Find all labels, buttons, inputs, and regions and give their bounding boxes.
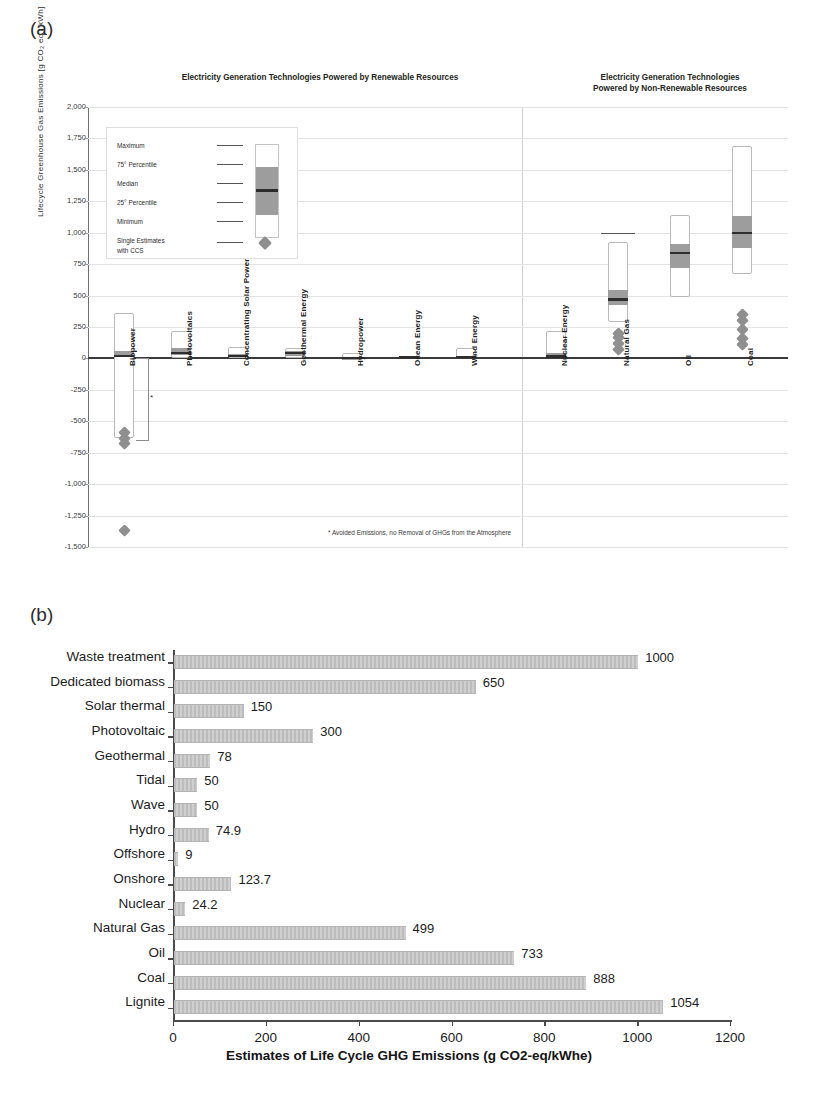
chart-b-bar-row: Dedicated biomass650 bbox=[173, 675, 730, 698]
chart-b-bar bbox=[174, 902, 185, 916]
chart-b-y-tick-mark bbox=[168, 786, 173, 787]
chart-b-y-tick-mark bbox=[168, 687, 173, 688]
chart-b-y-tick-mark bbox=[168, 909, 173, 910]
legend-item-maximum: Maximum bbox=[117, 142, 145, 149]
chart-b-y-tick-mark bbox=[168, 934, 173, 935]
chart-b-bar bbox=[174, 729, 313, 743]
chart-b-category-label: Waste treatment bbox=[66, 649, 165, 664]
chart-a-y-tick-label: -1,250 bbox=[26, 511, 86, 520]
legend-box-sample bbox=[255, 144, 279, 238]
legend-dash-single-est bbox=[217, 242, 243, 243]
legend-dash-p75 bbox=[217, 164, 243, 165]
chart-a-y-tick-label: 250 bbox=[26, 322, 86, 331]
chart-a-y-tick-label: 2,000 bbox=[26, 102, 86, 111]
chart-b-value-label: 74.9 bbox=[216, 823, 241, 838]
chart-b-bar-row: Hydro74.9 bbox=[173, 823, 730, 846]
chart-b-bar-row: Tidal50 bbox=[173, 773, 730, 796]
chart-b-category-label: Geothermal bbox=[94, 748, 165, 763]
chart-b-bar-row: Onshore123.7 bbox=[173, 872, 730, 895]
chart-b-category-label: Hydro bbox=[129, 822, 165, 837]
chart-b-y-tick-mark bbox=[168, 884, 173, 885]
chart-b-bar bbox=[174, 877, 231, 891]
chart-b-bar-row: Wave50 bbox=[173, 798, 730, 821]
chart-b-value-label: 300 bbox=[320, 724, 342, 739]
chart-a-y-tick-label: 500 bbox=[26, 291, 86, 300]
chart-a-y-tick-label: -1,500 bbox=[26, 542, 86, 551]
legend-item-p25: 25° Percentile bbox=[117, 199, 157, 206]
panel-b-bar-chart: Waste treatment1000Dedicated biomass650S… bbox=[0, 640, 818, 1100]
chart-b-x-tick-label: 800 bbox=[533, 1030, 556, 1045]
chart-a-y-tick-label: 750 bbox=[26, 259, 86, 268]
chart-a-y-tick-label: -500 bbox=[26, 416, 86, 425]
chart-b-bar-row: Nuclear24.2 bbox=[173, 897, 730, 920]
chart-b-bar bbox=[174, 778, 197, 792]
chart-b-x-tick-mark bbox=[730, 1020, 731, 1026]
chart-b-category-label: Tidal bbox=[136, 772, 165, 787]
legend-item-p75: 75° Percentile bbox=[117, 161, 157, 168]
legend-ccs-diamond-icon bbox=[258, 236, 272, 250]
chart-a-y-tick-label: -750 bbox=[26, 448, 86, 457]
chart-b-category-label: Onshore bbox=[113, 871, 165, 886]
chart-b-bar bbox=[174, 828, 209, 842]
chart-a-plot-area: Lifecycle Greenhouse Gas Emissions [g CO… bbox=[88, 107, 788, 547]
chart-b-category-label: Wave bbox=[131, 797, 165, 812]
chart-a-y-tick-label: 1,000 bbox=[26, 228, 86, 237]
chart-a-gridline bbox=[88, 547, 788, 548]
chart-a-title-renewable: Electricity Generation Technologies Powe… bbox=[110, 72, 530, 83]
chart-b-bar bbox=[174, 1000, 663, 1014]
chart-a-footnote: * Avoided Emissions, no Removal of GHGs … bbox=[328, 529, 511, 536]
chart-b-y-tick-mark bbox=[168, 662, 173, 663]
chart-b-category-label: Offshore bbox=[113, 846, 165, 861]
chart-b-y-tick-mark bbox=[168, 835, 173, 836]
legend-item-minimum: Minimum bbox=[117, 218, 143, 225]
chart-b-value-label: 24.2 bbox=[192, 897, 217, 912]
chart-b-x-tick-label: 200 bbox=[255, 1030, 278, 1045]
chart-b-value-label: 78 bbox=[217, 749, 231, 764]
chart-b-category-label: Photovoltaic bbox=[91, 723, 165, 738]
chart-b-bar bbox=[174, 976, 586, 990]
chart-b-value-label: 1054 bbox=[670, 995, 699, 1010]
chart-b-category-label: Natural Gas bbox=[93, 920, 165, 935]
chart-b-category-label: Solar thermal bbox=[85, 698, 165, 713]
chart-a-y-tick-label: 1,750 bbox=[26, 133, 86, 142]
chart-b-plot-area: Waste treatment1000Dedicated biomass650S… bbox=[173, 650, 730, 1020]
chart-b-category-label: Lignite bbox=[125, 994, 165, 1009]
chart-a-category-label: Coal bbox=[746, 348, 755, 366]
chart-b-bar bbox=[174, 803, 197, 817]
chart-b-bar bbox=[174, 704, 244, 718]
chart-a-title-nonrenewable-line1: Electricity Generation Technologies bbox=[600, 73, 739, 82]
chart-b-x-tick-label: 600 bbox=[440, 1030, 463, 1045]
legend-item-median: Median bbox=[117, 180, 138, 187]
chart-b-value-label: 9 bbox=[185, 847, 192, 862]
chart-b-bar-row: Solar thermal150 bbox=[173, 699, 730, 722]
chart-b-x-tick-mark bbox=[452, 1020, 453, 1026]
chart-b-value-label: 650 bbox=[483, 675, 505, 690]
legend-dash-p25 bbox=[217, 202, 243, 203]
chart-b-y-tick-mark bbox=[168, 736, 173, 737]
chart-b-value-label: 150 bbox=[251, 699, 273, 714]
chart-b-category-label: Oil bbox=[149, 945, 166, 960]
chart-b-bar-row: Geothermal78 bbox=[173, 749, 730, 772]
chart-b-value-label: 1000 bbox=[645, 650, 674, 665]
box-median-line bbox=[732, 232, 752, 234]
chart-a-y-tick-label: 0 bbox=[26, 353, 86, 362]
chart-a-y-tick-label: -1,000 bbox=[26, 479, 86, 488]
chart-b-value-label: 733 bbox=[521, 946, 543, 961]
chart-a-y-tick-label: 1,500 bbox=[26, 165, 86, 174]
chart-b-x-axis-title: Estimates of Life Cycle GHG Emissions (g… bbox=[0, 1048, 818, 1063]
legend-dash-minimum bbox=[217, 221, 243, 222]
legend-dash-median bbox=[217, 183, 243, 184]
panel-a-boxplot-chart: Electricity Generation Technologies Powe… bbox=[0, 55, 818, 585]
chart-b-bar bbox=[174, 926, 406, 940]
chart-a-y-tick-label: 1,250 bbox=[26, 196, 86, 205]
chart-a-y-tick-mark bbox=[84, 547, 88, 548]
chart-b-category-label: Dedicated biomass bbox=[50, 674, 165, 689]
chart-b-value-label: 123.7 bbox=[238, 872, 271, 887]
chart-a-legend: Maximum 75° Percentile Median 25° Percen… bbox=[106, 127, 298, 259]
chart-a-title-nonrenewable: Electricity Generation Technologies Powe… bbox=[545, 72, 795, 94]
chart-b-value-label: 499 bbox=[413, 921, 435, 936]
legend-item-with-ccs: with CCS bbox=[117, 247, 144, 254]
chart-b-x-tick-mark bbox=[359, 1020, 360, 1026]
chart-b-bar bbox=[174, 754, 210, 768]
chart-b-bar-row: Natural Gas499 bbox=[173, 921, 730, 944]
